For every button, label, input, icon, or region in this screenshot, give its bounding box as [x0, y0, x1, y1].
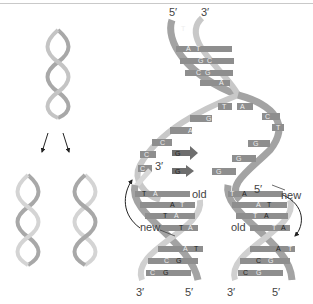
label-old-left: old [192, 189, 207, 200]
base: C [256, 257, 261, 264]
base: A [264, 212, 269, 219]
label-right-5prime: 5′ [254, 184, 262, 195]
base: C [140, 165, 145, 172]
base: C [150, 269, 155, 276]
base: T [179, 224, 183, 231]
base: A [256, 201, 261, 208]
replication-diagram [0, 0, 313, 304]
base: C [207, 57, 212, 64]
daughter-helix-2 [75, 175, 96, 265]
base: G [216, 168, 221, 175]
label-right-bottom-5prime: 5′ [272, 287, 280, 298]
arrow-left-icon [42, 133, 48, 152]
base: T [142, 190, 146, 197]
base: T [288, 245, 292, 252]
label-left-bottom-3prime: 3′ [136, 287, 144, 298]
base: C [160, 139, 165, 146]
base: G [205, 69, 210, 76]
base: G [163, 269, 168, 276]
base: A [186, 45, 191, 52]
free-base: G [175, 168, 180, 175]
base: T [180, 201, 184, 208]
parent-helix [48, 30, 69, 118]
base: T [181, 25, 185, 32]
label-top-5prime: 5′ [169, 7, 177, 18]
arrow-right-icon [63, 133, 69, 152]
base: A [240, 103, 245, 110]
daughter-helix-1 [18, 175, 39, 265]
base: C [196, 69, 201, 76]
base: C [144, 151, 149, 158]
base: A [242, 190, 247, 197]
base: A [183, 245, 188, 252]
base: T [253, 212, 257, 219]
base: G [268, 257, 273, 264]
label-new-right: new [281, 190, 301, 201]
base: A [219, 79, 224, 86]
base: T [196, 45, 200, 52]
base: C [164, 257, 169, 264]
base: A [281, 224, 286, 231]
label-old-right: old [231, 222, 246, 233]
base: T [163, 212, 167, 219]
base: G [256, 269, 261, 276]
base: A [153, 190, 158, 197]
base: T [272, 224, 276, 231]
label-new-left: new [140, 222, 160, 233]
base: G [253, 140, 258, 147]
base: A [276, 245, 281, 252]
base: G [206, 115, 211, 122]
base: T [222, 103, 226, 110]
base: A [174, 212, 179, 219]
base: G [236, 155, 241, 162]
base: T [276, 124, 280, 131]
label-top-3prime: 3′ [201, 7, 209, 18]
base: C [243, 269, 248, 276]
base: A [170, 201, 175, 208]
base: A [188, 127, 193, 134]
split-arrows [42, 133, 69, 152]
base: C [265, 113, 270, 120]
label-right-bottom-3prime: 3′ [227, 287, 235, 298]
base: T [230, 190, 234, 197]
base: T [194, 245, 198, 252]
label-left-bottom-5prime: 5′ [185, 287, 193, 298]
base: A [188, 224, 193, 231]
base: G [198, 57, 203, 64]
free-base: G [175, 150, 180, 157]
base: G [176, 257, 181, 264]
label-primer-3prime: 3′ [155, 161, 163, 172]
base: T [267, 201, 271, 208]
